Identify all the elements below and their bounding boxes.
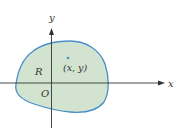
point-xy-marker	[67, 57, 70, 60]
y-axis-arrow-icon	[49, 28, 54, 35]
region-label: R	[34, 66, 43, 77]
x-axis-label: x	[168, 78, 174, 89]
region-diagram: x y R O (x, y)	[0, 0, 186, 136]
region-r	[16, 41, 109, 112]
y-axis-label: y	[48, 12, 55, 23]
origin-label: O	[41, 88, 49, 99]
x-axis-arrow-icon	[158, 81, 165, 86]
point-label: (x, y)	[63, 62, 87, 73]
